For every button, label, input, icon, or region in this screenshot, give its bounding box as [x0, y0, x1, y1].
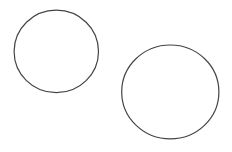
- circle-left: [14, 10, 98, 93]
- circle-right: [122, 45, 219, 139]
- drawing-canvas: [0, 0, 232, 152]
